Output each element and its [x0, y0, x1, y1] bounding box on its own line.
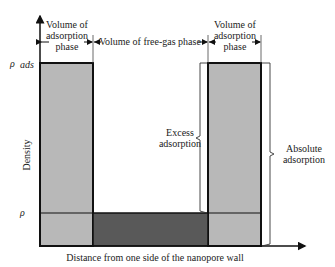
right-label-line1: Volume of — [214, 19, 256, 30]
left-adsorption-phase — [40, 63, 93, 246]
absolute-bracket — [262, 63, 274, 246]
x-axis-label: Distance from one side of the nanopore w… — [66, 252, 244, 263]
excess-label-line2: adsorption — [159, 138, 201, 149]
right-label-line3: phase — [224, 41, 247, 52]
free-gas-label: Volume of free-gas phase — [99, 36, 201, 47]
nanopore-density-diagram: Volume of adsorption phase Volume of fre… — [0, 0, 335, 267]
excess-label-line1: Excess — [166, 127, 194, 138]
left-label-line2: adsorption — [46, 30, 88, 41]
free-gas-phase — [93, 213, 208, 246]
right-adsorption-phase — [208, 63, 261, 246]
rho-ads-subscript: ads — [20, 59, 34, 70]
right-label-line2: adsorption — [214, 30, 256, 41]
rho-ads-tick: ρ — [9, 58, 15, 69]
absolute-label-line2: adsorption — [283, 154, 325, 165]
left-label-line1: Volume of — [46, 19, 88, 30]
rho-tick: ρ — [19, 207, 25, 218]
absolute-label-line1: Absolute — [286, 143, 323, 154]
y-axis-label: Density — [21, 139, 32, 170]
left-label-line3: phase — [56, 41, 79, 52]
